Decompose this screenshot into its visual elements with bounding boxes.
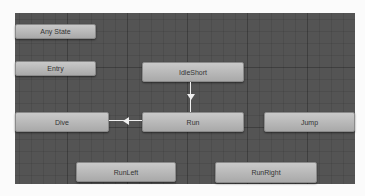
state-run-left[interactable]: RunLeft — [76, 162, 176, 182]
state-label: Entry — [47, 65, 63, 72]
state-label: Dive — [55, 119, 69, 126]
arrow-down-icon — [187, 94, 195, 100]
state-label: Jump — [301, 119, 318, 126]
state-label: Run — [187, 119, 200, 126]
state-dive[interactable]: Dive — [15, 112, 109, 132]
arrow-left-icon — [123, 117, 129, 125]
state-run-right[interactable]: RunRight — [215, 162, 317, 183]
state-label: RunLeft — [114, 169, 139, 176]
state-entry[interactable]: Entry — [15, 61, 96, 76]
state-jump[interactable]: Jump — [264, 112, 355, 132]
state-label: IdleShort — [179, 69, 207, 76]
state-run[interactable]: Run — [142, 112, 244, 132]
state-label: Any State — [40, 28, 70, 35]
state-any-state[interactable]: Any State — [15, 24, 96, 39]
state-idle-short[interactable]: IdleShort — [142, 62, 244, 82]
state-label: RunRight — [251, 169, 280, 176]
